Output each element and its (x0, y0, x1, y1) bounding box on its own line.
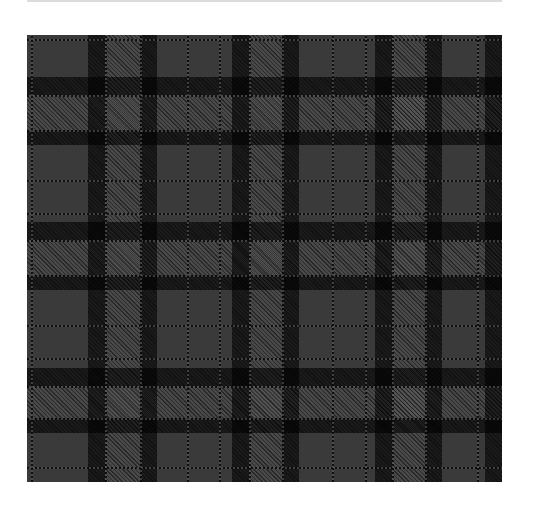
vertical-mid-band (249, 35, 282, 482)
horizontal-fine-line (27, 275, 502, 277)
vertical-fine-line (282, 35, 284, 482)
vertical-fine-line (105, 35, 107, 482)
vertical-dark-band (485, 35, 502, 482)
vertical-dark-band (140, 35, 157, 482)
horizontal-fine-line (27, 418, 502, 420)
vertical-fine-line (425, 35, 427, 482)
vertical-dark-band (282, 35, 299, 482)
horizontal-fine-line (27, 240, 502, 242)
vertical-fine-line (31, 35, 33, 482)
horizontal-fine-line (27, 130, 502, 132)
vertical-dark-band (232, 35, 249, 482)
vertical-mid-band (392, 35, 425, 482)
vertical-fine-line (219, 35, 221, 482)
horizontal-fine-line (27, 95, 502, 97)
tartan-swatch (27, 35, 502, 482)
horizontal-fine-line (27, 39, 502, 41)
vertical-fine-line (249, 35, 251, 482)
vertical-mid-band (105, 35, 140, 482)
vertical-fine-line (187, 35, 189, 482)
horizontal-fine-line (27, 180, 502, 182)
vertical-dark-band (425, 35, 442, 482)
vertical-fine-line (332, 35, 334, 482)
vertical-dark-band (88, 35, 105, 482)
vertical-fine-line (392, 35, 394, 482)
horizontal-fine-line (27, 386, 502, 388)
vertical-fine-line (477, 35, 479, 482)
horizontal-fine-line (27, 467, 502, 469)
vertical-dark-band (375, 35, 392, 482)
horizontal-fine-line (27, 358, 502, 360)
horizontal-fine-line (27, 213, 502, 215)
top-divider (27, 0, 502, 2)
horizontal-fine-line (27, 325, 502, 327)
vertical-fine-line (365, 35, 367, 482)
vertical-fine-line (140, 35, 142, 482)
